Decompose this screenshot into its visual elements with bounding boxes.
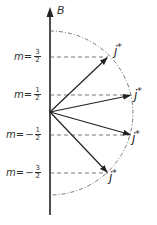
m-prefix: m= [14, 51, 32, 62]
fraction: 32 [34, 49, 40, 64]
axis-arrow-icon [47, 7, 54, 17]
fraction: 12 [34, 87, 40, 102]
vector-label-neg-1-2: j* [132, 129, 140, 145]
axis-label: B [57, 4, 65, 17]
m-sign: − [25, 167, 33, 178]
vector-1-2 [50, 96, 130, 113]
vector-neg-3-2 [50, 112, 107, 172]
vector-neg-1-2 [50, 112, 130, 135]
m-prefix: m= [14, 89, 32, 100]
fraction: 32 [35, 165, 41, 180]
m-label-1-2: m= 12 [14, 87, 41, 102]
m-label-3-2: m= 32 [14, 49, 41, 64]
vector-3-2 [50, 58, 107, 112]
m-sign: − [25, 129, 33, 140]
m-prefix: m= [6, 129, 24, 140]
vector-label-1-2: j* [134, 86, 142, 102]
fraction: 12 [35, 127, 41, 142]
m-label-neg-3-2: m= − 32 [6, 165, 41, 180]
m-label-neg-1-2: m= − 12 [6, 127, 41, 142]
diagram-canvas [0, 0, 157, 225]
m-prefix: m= [6, 167, 24, 178]
vector-label-3-2: j* [114, 42, 122, 58]
vector-label-neg-3-2: j* [109, 168, 117, 184]
